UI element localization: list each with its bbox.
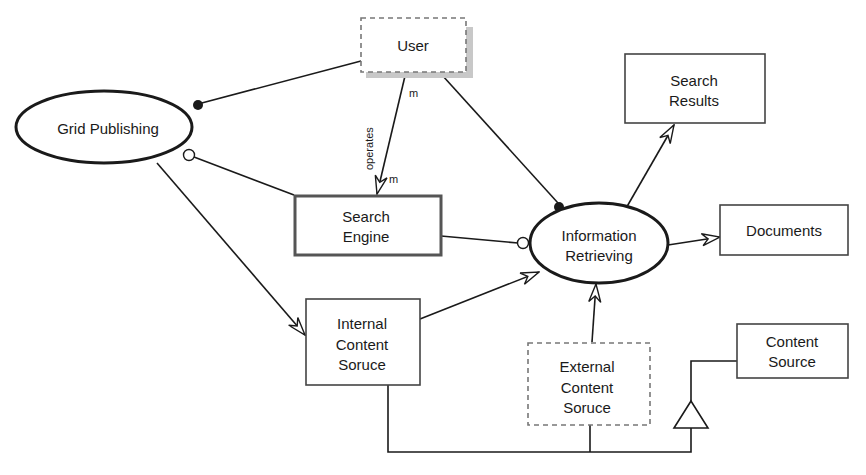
- node-documents[interactable]: Documents: [720, 205, 848, 255]
- edge-information-retrieving-search-results: [625, 125, 674, 210]
- edge-information-retrieving-documents: [668, 237, 720, 245]
- external-content-source-label-line3: Soruce: [563, 399, 611, 416]
- documents-label: Documents: [746, 222, 822, 239]
- edge-internal-content-information-retrieving: [420, 272, 539, 319]
- edge-user-grid-publishing: [198, 61, 361, 104]
- edge-search-engine-grid-publishing: [194, 157, 294, 195]
- multiplicity-target-label: m: [389, 173, 398, 185]
- external-content-source-label-line1: External: [559, 358, 614, 375]
- user-shadow-bottom: [366, 72, 473, 78]
- external-content-source-label-line2: Content: [561, 379, 614, 396]
- internal-content-source-label-line2: Content: [336, 336, 389, 353]
- content-source-label-line2: Source: [768, 353, 816, 370]
- multiplicity-source-label: m: [409, 87, 418, 99]
- edge-external-content-information-retrieving: [592, 284, 596, 342]
- edge-user-information-retrieving: [442, 75, 558, 203]
- grid-publishing-label: Grid Publishing: [57, 120, 159, 137]
- internal-content-source-label-line1: Internal: [337, 315, 387, 332]
- edge-grid-publishing-internal-content: [157, 163, 305, 335]
- edge-search-engine-information-retrieving: [441, 236, 518, 243]
- user-label: User: [397, 37, 429, 54]
- node-search-engine[interactable]: Search Engine: [295, 196, 441, 255]
- generalization-triangle-icon: [674, 401, 708, 428]
- generalization-to-content-source: [691, 361, 737, 401]
- operates-label: operates: [363, 127, 375, 170]
- search-engine-label-line1: Search: [342, 208, 390, 225]
- node-content-source[interactable]: Content Source: [737, 324, 848, 378]
- search-engine-label-line2: Engine: [343, 228, 390, 245]
- hollow-dot-icon: [518, 238, 529, 249]
- filled-dot-icon: [193, 100, 203, 110]
- concept-diagram: m m operates User Grid Publishing Search…: [0, 0, 866, 475]
- user-shadow: [466, 27, 473, 78]
- information-retrieving-label-line1: Information: [561, 227, 636, 244]
- node-information-retrieving[interactable]: Information Retrieving: [530, 203, 668, 283]
- node-external-content-source[interactable]: External Content Soruce: [528, 343, 650, 425]
- node-search-results[interactable]: Search Results: [625, 54, 765, 123]
- node-internal-content-source[interactable]: Internal Content Soruce: [306, 299, 420, 385]
- search-engine-box: [295, 196, 441, 255]
- node-grid-publishing[interactable]: Grid Publishing: [16, 91, 192, 163]
- internal-content-source-label-line3: Soruce: [338, 356, 386, 373]
- hollow-dot-icon: [184, 150, 195, 161]
- search-results-label-line1: Search: [670, 72, 718, 89]
- content-source-label-line1: Content: [766, 333, 819, 350]
- search-results-label-line2: Results: [669, 92, 719, 109]
- node-user[interactable]: User: [361, 18, 473, 78]
- information-retrieving-label-line2: Retrieving: [565, 247, 633, 264]
